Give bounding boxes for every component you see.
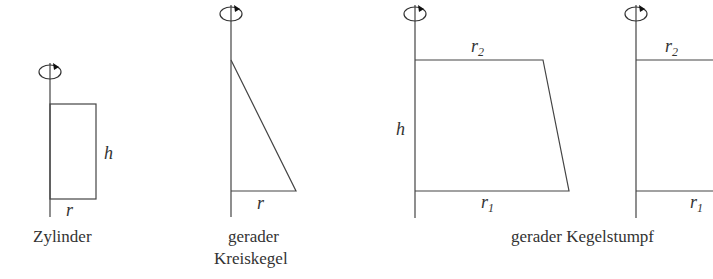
cylinder-figure: h r Zylinder (33, 63, 113, 246)
radius-label: r (66, 200, 74, 220)
caption-zylinder: Zylinder (33, 227, 92, 246)
caption-kegelstumpf: gerader Kegelstumpf (511, 227, 654, 246)
frustum-figure: r2 h r1 gerader Kegelstumpf (396, 5, 654, 246)
caption-line1: gerader (228, 227, 279, 246)
top-radius-label: r2 (471, 36, 484, 59)
bottom-radius-label: r1 (690, 192, 703, 215)
cone-figure: r gerader Kreiskegel (214, 5, 296, 268)
rotation-bodies-diagram: h r Zylinder r gerader Kreiskegel r2 h r… (0, 0, 713, 279)
bottom-radius-label: r1 (481, 192, 494, 215)
cylinder-profile (50, 104, 96, 199)
height-label: h (396, 119, 405, 139)
cone-profile (231, 60, 296, 191)
height-label: h (104, 143, 113, 163)
top-radius-label: r2 (665, 36, 678, 59)
frustum-profile (415, 60, 569, 191)
radius-label: r (257, 193, 265, 213)
caption-line2: Kreiskegel (214, 249, 288, 268)
frustum-partial-figure: r2 r1 (625, 5, 713, 218)
